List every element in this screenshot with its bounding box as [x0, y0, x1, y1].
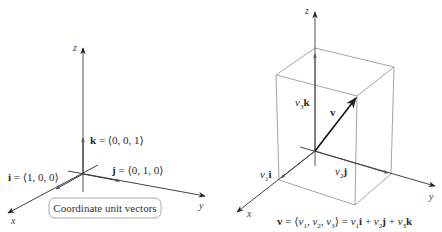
- v1i-label: v1i: [260, 168, 271, 183]
- v1i-vector: [281, 151, 315, 178]
- k-label: k = ⟨0, 0, 1⟩: [90, 134, 144, 146]
- vector-formula: v = ⟨v1, v2, v3⟩ = v1i + v2j + v3k: [277, 215, 413, 230]
- i-vector: [56, 174, 83, 189]
- j-label: j = ⟨0, 1, 0⟩: [111, 164, 163, 176]
- left-y-label: y: [198, 200, 204, 211]
- right-y-label: y: [428, 191, 434, 202]
- v2j-vector: [315, 151, 388, 173]
- left-x-label: x: [10, 215, 16, 226]
- caption-box: Coordinate unit vectors: [49, 198, 161, 218]
- v3k-label: v3k: [295, 96, 310, 111]
- right-z-label: z: [304, 5, 309, 16]
- left-z-label: z: [72, 42, 77, 53]
- i-label: i = ⟨1, 0, 0⟩: [8, 171, 59, 183]
- v-label: v: [330, 106, 336, 118]
- left-figure: z y x k = ⟨0, 0, 1⟩ j = ⟨0, 1, 0⟩ i = ⟨1…: [8, 42, 205, 226]
- v-vector: [315, 98, 356, 151]
- right-x-label: x: [246, 208, 252, 219]
- component-box: [276, 48, 394, 205]
- caption-text: Coordinate unit vectors: [53, 202, 156, 214]
- diagram-canvas: z y x k = ⟨0, 0, 1⟩ j = ⟨0, 1, 0⟩ i = ⟨1…: [0, 0, 442, 232]
- right-figure: z y x v v3k v2j v1i v = ⟨v1, v2, v3⟩ = v…: [237, 5, 435, 230]
- v2j-label: v2j: [335, 165, 347, 180]
